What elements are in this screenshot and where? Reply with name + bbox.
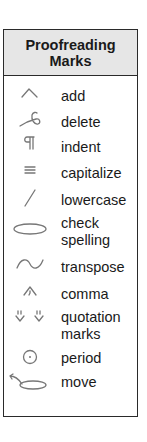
proofreading-marks-card: Proofreading Marks add delete indent cap… bbox=[3, 29, 138, 417]
card-header: Proofreading Marks bbox=[4, 30, 137, 76]
mark-label: indent bbox=[61, 139, 101, 156]
mark-label: comma bbox=[61, 286, 109, 303]
mark-label: transpose bbox=[61, 259, 125, 276]
mark-label: period bbox=[61, 350, 101, 367]
mark-label: quotation marks bbox=[61, 309, 135, 343]
mark-label: lowercase bbox=[61, 192, 126, 209]
pilcrow-icon bbox=[12, 135, 48, 151]
delete-loop-icon bbox=[12, 110, 48, 128]
circled-dot-icon bbox=[12, 349, 48, 365]
tilde-icon bbox=[12, 258, 48, 270]
slash-icon bbox=[12, 189, 48, 207]
mark-label: capitalize bbox=[61, 165, 121, 182]
quotation-carets-icon bbox=[12, 309, 48, 323]
caret-comma-icon bbox=[12, 283, 48, 297]
mark-label: check spelling bbox=[61, 215, 131, 249]
move-arrow-icon bbox=[8, 372, 48, 392]
mark-label: move bbox=[61, 374, 96, 391]
ellipse-icon bbox=[12, 222, 48, 236]
caret-icon bbox=[12, 86, 48, 98]
mark-label: delete bbox=[61, 114, 101, 131]
card-title: Proofreading Marks bbox=[4, 37, 137, 69]
triple-underline-icon bbox=[12, 165, 48, 175]
mark-label: add bbox=[61, 88, 85, 105]
